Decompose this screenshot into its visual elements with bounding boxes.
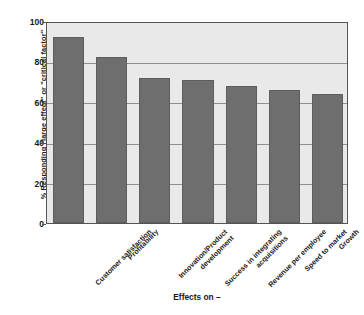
- y-tick-mark: [42, 184, 46, 185]
- y-tick-label: 80: [4, 57, 44, 67]
- y-tick-label: 0: [4, 219, 44, 229]
- bar: [53, 37, 84, 223]
- bar: [139, 78, 170, 223]
- y-tick-mark: [42, 143, 46, 144]
- bar: [269, 90, 300, 223]
- bar: [226, 86, 257, 223]
- y-tick-label: 60: [4, 98, 44, 108]
- bar: [312, 94, 343, 223]
- x-axis-title: Effects on –: [0, 292, 364, 302]
- y-tick-mark: [42, 103, 46, 104]
- y-tick-mark: [42, 62, 46, 63]
- plot-area: [46, 22, 348, 224]
- y-tick-mark: [42, 22, 46, 23]
- gridline: [47, 63, 347, 64]
- bar: [96, 57, 127, 223]
- y-tick-label: 40: [4, 138, 44, 148]
- bar: [182, 80, 213, 223]
- bar-chart-figure: % Responding "large effect" or "critical…: [0, 0, 364, 315]
- y-tick-label: 20: [4, 179, 44, 189]
- y-tick-label: 100: [4, 17, 44, 27]
- y-tick-mark: [42, 224, 46, 225]
